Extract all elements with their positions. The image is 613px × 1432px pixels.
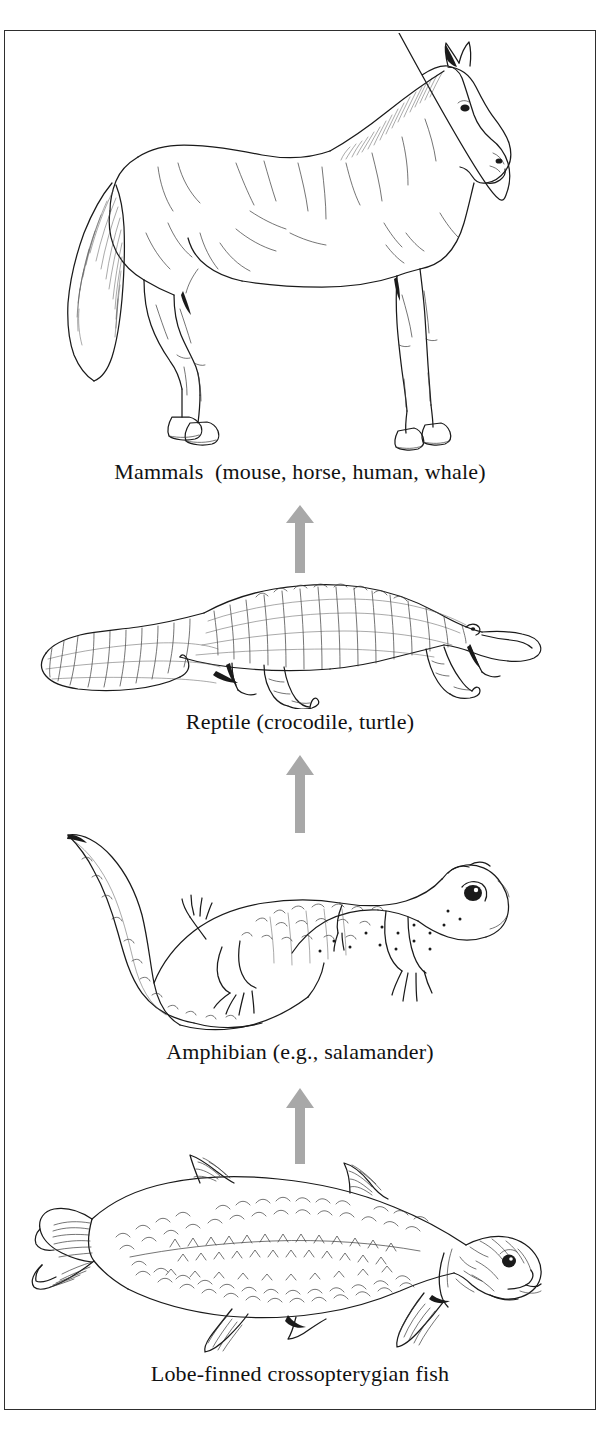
level-panel-reptile: Reptile (crocodile, turtle): [5, 579, 595, 779]
horse-illustration: [50, 33, 550, 453]
coelacanth-illustration: [20, 1149, 580, 1369]
caption-fish: Lobe-finned crossopterygian fish: [5, 1361, 595, 1387]
level-panel-mammals: Mammals (mouse, horse, human, whale): [5, 31, 595, 501]
crocodile-illustration: [18, 579, 558, 709]
figure-frame: Mammals (mouse, horse, human, whale): [4, 30, 596, 1410]
level-panel-amphibian: Amphibian (e.g., salamander): [5, 821, 595, 1091]
caption-reptile: Reptile (crocodile, turtle): [5, 709, 595, 735]
caption-mammals: Mammals (mouse, horse, human, whale): [5, 459, 595, 485]
salamander-illustration: [24, 821, 564, 1051]
caption-amphibian: Amphibian (e.g., salamander): [5, 1039, 595, 1065]
level-panel-fish: Lobe-finned crossopterygian fish: [5, 1149, 595, 1411]
arrow-reptile-to-mammals: [282, 503, 318, 573]
